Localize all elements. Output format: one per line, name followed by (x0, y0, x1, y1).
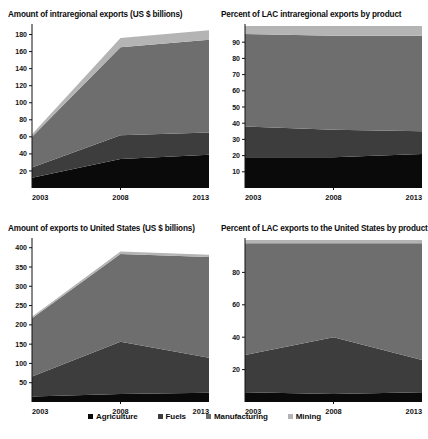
x-axis-tick-label: 2003 (32, 193, 48, 202)
plot-svg-intraregional-percent: 102030405060708090200320082013 (213, 10, 426, 215)
x-axis-tick-label: 2008 (325, 193, 341, 202)
plot-svg-united-states-percent: 20406080200320082013 (213, 224, 426, 429)
y-axis-tick-label: 20 (232, 366, 240, 373)
y-axis-tick-label: 300 (15, 283, 27, 290)
legend-item-label: Manufacturing (214, 412, 268, 421)
plot-area-united-states-percent: 20406080200320082013 (213, 224, 426, 429)
y-axis-tick-label: 20 (232, 152, 240, 159)
y-axis-tick-label: 70 (232, 71, 240, 78)
plot-svg-united-states-amount: 50100150200250300350400200320082013 (0, 224, 213, 429)
y-axis-tick-label: 100 (15, 360, 27, 367)
legend-item-label: Agriculture (96, 412, 138, 421)
y-axis-tick-label: 60 (232, 301, 240, 308)
y-axis-tick-label: 20 (19, 168, 27, 175)
y-axis-tick-label: 80 (232, 55, 240, 62)
area-series-fuels (245, 126, 422, 157)
chart-legend: AgricultureFuelsManufacturingMining (0, 408, 426, 424)
y-axis-tick-label: 120 (15, 82, 27, 89)
x-axis-tick-label: 2003 (245, 193, 261, 202)
y-axis-tick-label: 60 (19, 133, 27, 140)
y-axis-tick-label: 250 (15, 302, 27, 309)
legend-swatch-icon (206, 414, 211, 419)
y-axis-tick-label: 10 (232, 168, 240, 175)
plot-area-united-states-amount: 50100150200250300350400200320082013 (0, 224, 213, 429)
x-axis-tick-label: 2008 (112, 193, 128, 202)
area-series-mining (245, 240, 422, 243)
y-axis-tick-label: 60 (232, 87, 240, 94)
y-axis-tick-label: 80 (232, 269, 240, 276)
legend-item[interactable]: Manufacturing (206, 412, 268, 421)
plot-area-intraregional-percent: 102030405060708090200320082013 (213, 10, 426, 215)
chart-panel-united-states-percent: Percent of LAC exports to the United Sta… (213, 224, 426, 429)
area-series-agriculture (245, 154, 422, 188)
y-axis-tick-label: 160 (15, 48, 27, 55)
y-axis-tick-label: 100 (15, 99, 27, 106)
chart-panel-intraregional-percent: Percent of LAC intraregional exports by … (213, 10, 426, 215)
y-axis-tick-label: 350 (15, 264, 27, 271)
area-series-manufacturing (245, 34, 422, 131)
legend-item[interactable]: Fuels (158, 412, 186, 421)
y-axis-tick-label: 40 (19, 150, 27, 157)
legend-item[interactable]: Mining (288, 412, 321, 421)
area-series-mining (245, 26, 422, 36)
y-axis-tick-label: 200 (15, 321, 27, 328)
y-axis-tick-label: 40 (232, 120, 240, 127)
legend-swatch-icon (88, 414, 93, 419)
legend-swatch-icon (158, 414, 163, 419)
y-axis-tick-label: 50 (19, 379, 27, 386)
y-axis-tick-label: 400 (15, 244, 27, 251)
x-axis-tick-label: 2013 (193, 193, 209, 202)
y-axis-tick-label: 30 (232, 136, 240, 143)
plot-area-intraregional-amount: 20406080100120140160180200320082013 (0, 10, 213, 215)
y-axis-tick-label: 180 (15, 31, 27, 38)
y-axis-tick-label: 150 (15, 341, 27, 348)
legend-swatch-icon (288, 414, 293, 419)
chart-panel-united-states-amount: Amount of exports to United States (US $… (0, 224, 213, 429)
chart-panel-intraregional-amount: Amount of intraregional exports (US $ bi… (0, 10, 213, 215)
legend-item-label: Mining (296, 412, 321, 421)
x-axis-tick-label: 2013 (406, 193, 422, 202)
legend-item[interactable]: Agriculture (88, 412, 138, 421)
legend-item-label: Fuels (166, 412, 186, 421)
y-axis-tick-label: 80 (19, 116, 27, 123)
y-axis-tick-label: 50 (232, 104, 240, 111)
y-axis-tick-label: 40 (232, 334, 240, 341)
y-axis-tick-label: 90 (232, 39, 240, 46)
plot-svg-intraregional-amount: 20406080100120140160180200320082013 (0, 10, 213, 215)
y-axis-tick-label: 140 (15, 65, 27, 72)
